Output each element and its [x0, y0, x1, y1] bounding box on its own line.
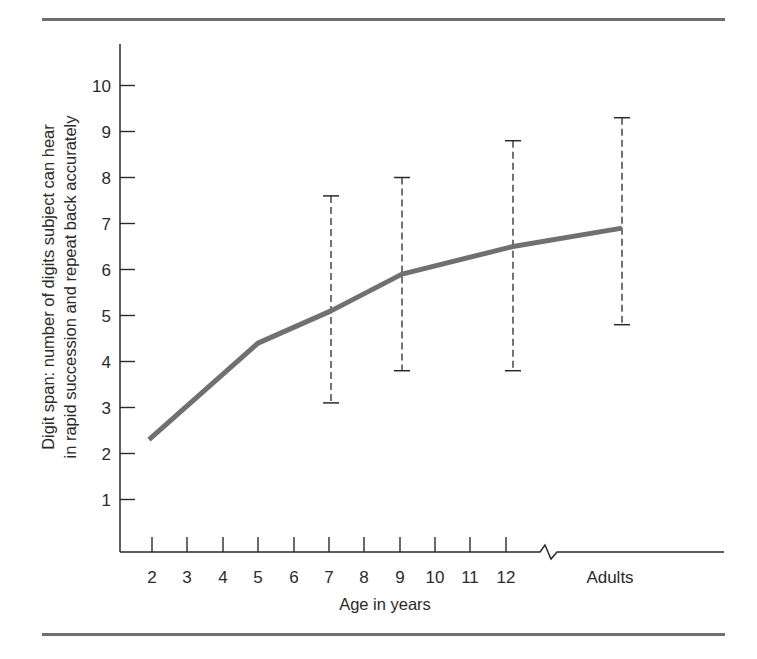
series-line: [149, 228, 622, 440]
x-tick-label: 8: [359, 568, 368, 587]
digit-span-chart: 12345678910 23456789101112Adults Age in …: [0, 0, 757, 659]
x-tick-label: 2: [147, 568, 156, 587]
y-tick-label: 7: [102, 215, 111, 234]
y-tick-label: 8: [102, 169, 111, 188]
x-tick-label: 7: [324, 568, 333, 587]
y-tick-label: 9: [102, 123, 111, 142]
y-tick-label: 4: [102, 353, 111, 372]
x-axis-line-with-break: [120, 545, 724, 559]
x-tick-label: 11: [461, 568, 479, 587]
data-series: [149, 228, 622, 440]
x-tick-label: 3: [182, 568, 191, 587]
x-tick-label: 10: [426, 568, 445, 587]
x-tick-label: 12: [497, 568, 516, 587]
error-bars: [323, 118, 630, 403]
y-tick-label: 5: [102, 307, 111, 326]
x-axis-ticks: 23456789101112Adults: [147, 537, 633, 587]
y-axis-title-line-1: Digit span: number of digits subject can…: [39, 124, 57, 450]
x-tick-label: 6: [289, 568, 298, 587]
axes: [120, 44, 724, 559]
x-axis-title: Age in years: [339, 595, 431, 613]
x-tick-label: 9: [395, 568, 404, 587]
y-axis-ticks: 12345678910: [92, 77, 135, 510]
x-tick-label: 5: [253, 568, 262, 587]
y-tick-label: 10: [92, 77, 111, 96]
y-axis-title-line-2: in rapid succession and repeat back accu…: [61, 115, 79, 459]
y-tick-label: 2: [102, 445, 111, 464]
y-tick-label: 1: [102, 491, 111, 510]
x-tick-label: Adults: [586, 568, 633, 587]
x-tick-label: 4: [218, 568, 227, 587]
y-tick-label: 3: [102, 399, 111, 418]
y-tick-label: 6: [102, 261, 111, 280]
